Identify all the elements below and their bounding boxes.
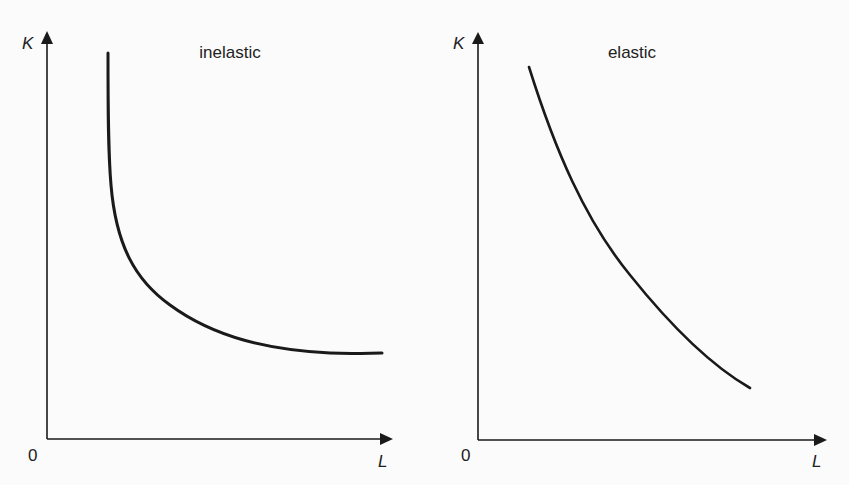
- right-chart-title: elastic: [608, 43, 657, 62]
- right-x-axis-arrow-icon: [814, 434, 827, 446]
- right-y-axis-arrow-icon: [472, 32, 484, 44]
- left-isoquant-curve: [108, 53, 382, 353]
- right-origin-label: 0: [461, 446, 470, 465]
- left-chart-inelastic: K 0 L inelastic: [22, 31, 393, 471]
- right-y-axis-label: K: [453, 34, 465, 53]
- left-origin-label: 0: [28, 446, 37, 465]
- left-x-axis-label: L: [378, 452, 387, 471]
- right-chart-elastic: K 0 L elastic: [453, 32, 827, 471]
- left-x-axis-arrow-icon: [380, 433, 393, 445]
- left-chart-title: inelastic: [199, 43, 261, 62]
- left-y-axis-arrow-icon: [41, 31, 53, 44]
- figure-canvas: K 0 L inelastic K 0 L elastic: [0, 0, 849, 485]
- right-x-axis-label: L: [812, 452, 821, 471]
- right-isoquant-curve: [529, 67, 750, 388]
- left-y-axis-label: K: [22, 34, 34, 53]
